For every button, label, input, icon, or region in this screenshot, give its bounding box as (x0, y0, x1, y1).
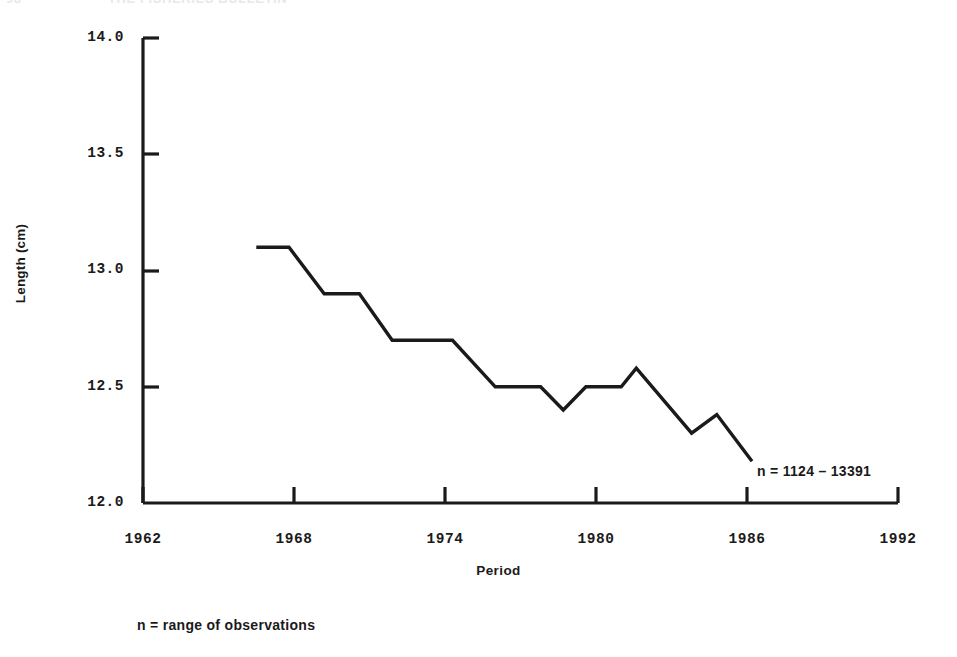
x-axis-ticks (143, 487, 898, 503)
chart-page: 98 THE FISHERIES BULLETIN Length (cm) Pe… (0, 0, 957, 657)
footnote: n = range of observations (137, 617, 315, 633)
sample-size-annotation: n = 1124 – 13391 (757, 463, 871, 479)
chart-canvas (0, 0, 957, 657)
data-series-line (256, 247, 752, 461)
line-chart: Length (cm) Period 14.0 13.5 13.0 12.5 1… (0, 0, 957, 657)
y-axis-ticks (143, 38, 159, 387)
